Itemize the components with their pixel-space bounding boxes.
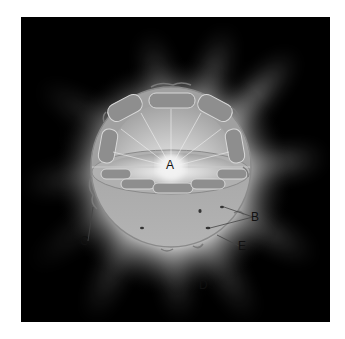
label-d-corona: D [199,279,208,291]
sun-diagram-frame [21,17,330,322]
label-b-sunspots: B [251,211,259,223]
label-e-photosphere: E [238,240,246,252]
sun-diagram [21,17,330,322]
label-a-core: A [166,159,174,171]
label-c-prominence: C [80,235,89,247]
